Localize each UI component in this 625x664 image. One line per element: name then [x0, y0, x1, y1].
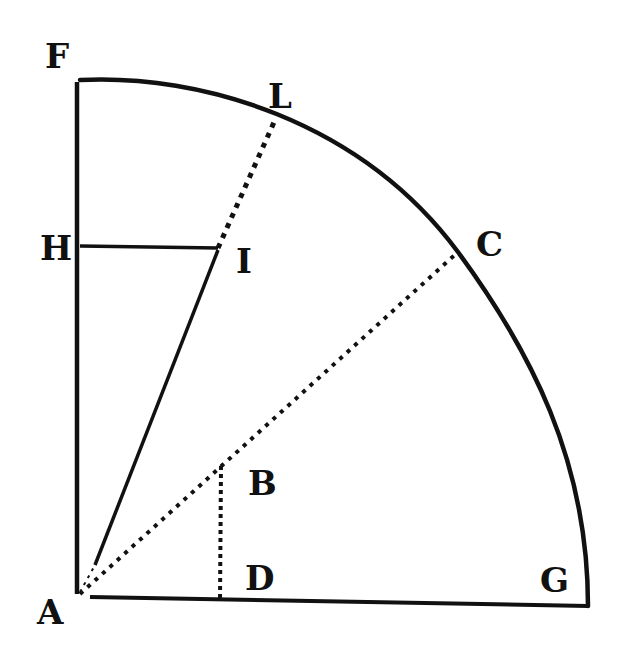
label-L: L — [268, 76, 292, 116]
label-H: H — [40, 228, 72, 268]
line-AI — [95, 250, 218, 565]
label-G: G — [540, 560, 569, 600]
label-A: A — [36, 592, 64, 632]
quadrant-diagram: F L H I C B D G A — [0, 0, 625, 664]
label-D: D — [245, 558, 274, 598]
line-AI-faint — [80, 565, 95, 592]
line-AG — [90, 597, 588, 606]
line-HI — [80, 246, 218, 248]
label-C: C — [476, 224, 503, 264]
label-B: B — [248, 463, 277, 503]
line-AC — [80, 252, 458, 594]
line-BD — [220, 466, 221, 600]
line-IL — [218, 120, 275, 248]
label-I: I — [236, 241, 252, 281]
label-F: F — [45, 36, 69, 76]
